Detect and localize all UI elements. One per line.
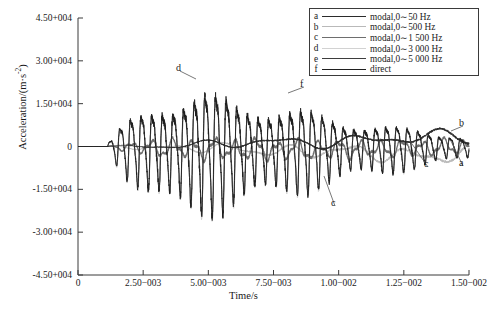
x-tick-label: 1.25−002 bbox=[369, 278, 439, 288]
legend-label-d: modal,0∼3 000 Hz bbox=[370, 43, 478, 54]
y-tick-label: -3.00+004 bbox=[14, 227, 72, 237]
series-line-f bbox=[78, 92, 469, 218]
x-tick-label: 0 bbox=[43, 278, 113, 288]
legend-swatch-a bbox=[322, 16, 366, 17]
curve-label-b: b bbox=[459, 117, 464, 128]
legend-key-e: e bbox=[310, 54, 322, 64]
legend-swatch-f bbox=[322, 69, 366, 70]
curve-label-f: f bbox=[300, 78, 303, 89]
legend-label-e: modal,0∼5 000 Hz bbox=[370, 53, 478, 64]
legend-key-c: c bbox=[310, 32, 322, 42]
x-tick-label: 1.50−002 bbox=[434, 278, 492, 288]
legend-item-e: emodal,0∼5 000 Hz bbox=[310, 53, 478, 64]
legend-key-b: b bbox=[310, 22, 322, 32]
legend-swatch-d bbox=[322, 48, 366, 49]
x-tick-label: 1.00−002 bbox=[304, 278, 374, 288]
legend-item-f: fdirect bbox=[310, 64, 478, 75]
x-tick-label: 7.50−003 bbox=[239, 278, 309, 288]
y-tick-label: -1.50+004 bbox=[14, 184, 72, 194]
x-axis-title: Time/s bbox=[0, 290, 487, 301]
curve-label-d: d bbox=[176, 62, 181, 73]
curve-label-c: c bbox=[331, 197, 335, 208]
legend-item-b: bmodal,0∼500 Hz bbox=[310, 22, 478, 33]
legend-label-a: modal,0∼50 Hz bbox=[370, 11, 478, 22]
chart-legend: amodal,0∼50 Hzbmodal,0∼500 Hzcmodal,0∼1 … bbox=[309, 8, 479, 76]
legend-label-f: direct bbox=[370, 64, 478, 74]
x-tick-label: 5.00−003 bbox=[173, 278, 243, 288]
legend-item-a: amodal,0∼50 Hz bbox=[310, 11, 478, 22]
legend-item-d: dmodal,0∼3 000 Hz bbox=[310, 43, 478, 54]
y-tick-label: 4.50+004 bbox=[14, 13, 72, 23]
legend-swatch-e bbox=[322, 58, 366, 59]
legend-swatch-b bbox=[322, 26, 366, 27]
series-curves bbox=[78, 92, 469, 221]
legend-label-c: modal,0∼1 500 Hz bbox=[370, 32, 478, 43]
curve-label-c: c bbox=[424, 158, 428, 169]
curve-label-a: a bbox=[459, 157, 463, 168]
legend-label-b: modal,0∼500 Hz bbox=[370, 21, 478, 32]
legend-key-a: a bbox=[310, 11, 322, 21]
x-tick-label: 2.50−003 bbox=[108, 278, 178, 288]
y-axis-title: Acceleration/(m·s-2) bbox=[14, 52, 28, 162]
legend-item-c: cmodal,0∼1 500 Hz bbox=[310, 32, 478, 43]
legend-key-d: d bbox=[310, 43, 322, 53]
leader-line-d-0 bbox=[180, 71, 196, 79]
legend-key-f: f bbox=[310, 64, 322, 74]
legend-swatch-c bbox=[322, 37, 366, 38]
